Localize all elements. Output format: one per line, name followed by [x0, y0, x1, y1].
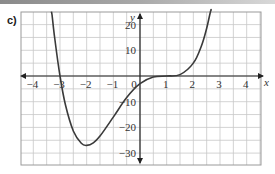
x-axis-label: x	[263, 76, 269, 88]
y-axis-down-arrow-icon	[137, 158, 143, 164]
y-tick-label: −20	[119, 121, 137, 133]
x-tick-label: 2	[190, 78, 196, 90]
y-axis-up-arrow-icon	[137, 13, 143, 19]
tick-labels: −4−3−2−1012342010−10−20−30xy	[26, 11, 269, 159]
x-tick-label: 1	[163, 78, 169, 90]
x-tick-label: 3	[216, 78, 222, 90]
x-tick-label: −3	[53, 78, 65, 90]
x-tick-label: 4	[243, 78, 249, 90]
y-axis-label: y	[129, 11, 135, 23]
x-tick-label: −2	[80, 78, 92, 90]
x-tick-label: −4	[26, 78, 38, 90]
x-tick-label: −1	[106, 78, 118, 90]
y-tick-label: −30	[119, 147, 137, 159]
function-graph: −4−3−2−1012342010−10−20−30xy	[0, 0, 275, 174]
y-tick-label: 10	[125, 44, 137, 56]
